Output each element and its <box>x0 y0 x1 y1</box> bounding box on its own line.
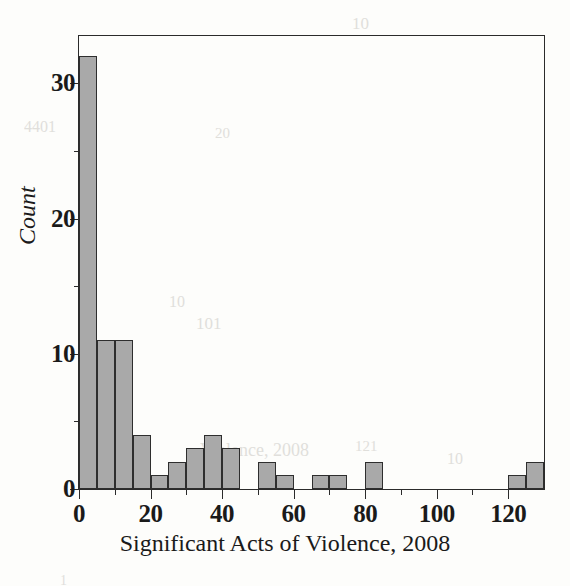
x-tick-minor <box>401 489 402 495</box>
histogram-bar <box>526 462 544 489</box>
y-axis-title: Count <box>14 186 41 245</box>
x-tick-label: 60 <box>282 500 306 528</box>
x-tick-label: 100 <box>419 500 455 528</box>
histogram-bar <box>151 475 169 489</box>
y-tick-label: 0 <box>63 475 75 503</box>
x-tick-major <box>508 489 509 499</box>
histogram-bar <box>258 462 276 489</box>
y-tick-label: 20 <box>51 205 75 233</box>
histogram-figure: 10440120110101Violence, 2008101211 01020… <box>0 0 570 586</box>
x-axis-title: Significant Acts of Violence, 2008 <box>0 530 570 557</box>
histogram-bar <box>168 462 186 489</box>
histogram-bar <box>79 56 97 489</box>
x-tick-minor <box>115 489 116 495</box>
x-tick-major <box>79 489 80 499</box>
x-tick-minor <box>472 489 473 495</box>
x-tick-label: 120 <box>490 500 526 528</box>
histogram-bar <box>115 340 133 489</box>
x-tick-minor <box>329 489 330 495</box>
x-tick-label: 40 <box>210 500 234 528</box>
x-tick-label: 20 <box>139 500 163 528</box>
x-tick-major <box>151 489 152 499</box>
bleedthrough-text: 1 <box>60 573 67 586</box>
histogram-bar <box>97 340 115 489</box>
histogram-bar <box>186 448 204 489</box>
histogram-bar <box>222 448 240 489</box>
bars-layer <box>79 36 544 489</box>
x-tick-label: 0 <box>73 500 85 528</box>
histogram-bar <box>508 475 526 489</box>
histogram-bar <box>276 475 294 489</box>
histogram-bar <box>133 435 151 489</box>
plot-frame: 0102030 020406080100120 <box>78 35 545 490</box>
x-tick-minor <box>186 489 187 495</box>
histogram-bar <box>204 435 222 489</box>
y-tick-label: 30 <box>51 69 75 97</box>
x-tick-minor <box>258 489 259 495</box>
y-tick-label: 10 <box>51 340 75 368</box>
histogram-bar <box>365 462 383 489</box>
x-tick-major <box>222 489 223 499</box>
histogram-bar <box>329 475 347 489</box>
bleedthrough-text: 4401 <box>24 118 56 136</box>
histogram-bar <box>312 475 330 489</box>
x-tick-major <box>437 489 438 499</box>
bleedthrough-text: 10 <box>352 14 369 34</box>
x-tick-major <box>365 489 366 499</box>
x-tick-label: 80 <box>353 500 377 528</box>
x-tick-major <box>294 489 295 499</box>
